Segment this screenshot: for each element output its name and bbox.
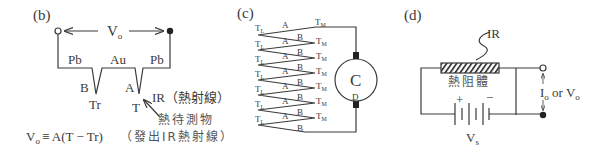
thermistor-icon bbox=[441, 63, 499, 73]
svg-text:TM: TM bbox=[316, 81, 328, 92]
svg-text:TL: TL bbox=[255, 99, 265, 110]
thermistor-label: 熱阻體 bbox=[448, 75, 490, 89]
svg-text:B: B bbox=[297, 62, 303, 72]
svg-text:TL: TL bbox=[255, 54, 265, 65]
hot-junction-labels: TM TM TM TM TM TM TM bbox=[315, 17, 328, 122]
meter-sub-label: D bbox=[352, 92, 359, 102]
output-filled-terminal-icon bbox=[540, 112, 546, 118]
svg-text:TM: TM bbox=[316, 111, 328, 122]
panel-c-thermopile: (c) TL TL TL TL TL TL TL TM TM TM TM TM … bbox=[237, 5, 377, 133]
panel-d-thermistor: (d) IR 熱阻體 + − Vs Io or Vo bbox=[404, 7, 580, 147]
meter-wire-top bbox=[316, 27, 356, 52]
vo-label: Vo bbox=[107, 23, 123, 41]
svg-text:B: B bbox=[297, 77, 303, 87]
wire-label-pb-left: Pb bbox=[68, 52, 82, 67]
wire-label-pb-right: Pb bbox=[150, 52, 164, 67]
svg-text:B: B bbox=[297, 107, 303, 117]
svg-text:B: B bbox=[297, 92, 303, 102]
output-open-terminal-icon bbox=[540, 65, 546, 71]
equation: Vo≡ A(T − Tr) bbox=[26, 129, 103, 146]
junction-b-label: B bbox=[80, 80, 89, 95]
svg-text:TL: TL bbox=[255, 23, 265, 34]
svg-text:B: B bbox=[297, 123, 303, 133]
svg-text:TL: TL bbox=[255, 84, 265, 95]
meter-terminal-top bbox=[353, 52, 359, 59]
minus-sign: − bbox=[486, 90, 493, 105]
svg-text:A: A bbox=[282, 20, 289, 30]
svg-text:B: B bbox=[297, 47, 303, 57]
target-note: （發出IR熱射線） bbox=[120, 129, 234, 144]
plus-sign: + bbox=[456, 92, 463, 107]
filled-terminal-icon bbox=[167, 28, 173, 34]
output-label: Io or Vo bbox=[540, 85, 580, 102]
source-label: Vs bbox=[466, 130, 479, 147]
svg-text:TM: TM bbox=[316, 96, 328, 107]
svg-text:A: A bbox=[282, 96, 289, 106]
svg-text:TM: TM bbox=[316, 66, 328, 77]
svg-text:TM: TM bbox=[315, 17, 327, 28]
svg-text:A: A bbox=[282, 81, 289, 91]
panel-b-thermocouple: (b) Vo Pb Au Pb B Tr A T IR（熱射線） 熱待測物 （發… bbox=[26, 7, 234, 146]
svg-text:TL: TL bbox=[255, 114, 265, 125]
wire-label-au: Au bbox=[110, 52, 126, 67]
svg-text:B: B bbox=[297, 32, 303, 42]
target-label: 熱待測物 bbox=[158, 113, 214, 127]
panel-c-label: (c) bbox=[237, 5, 254, 22]
meter-label: C bbox=[350, 71, 361, 90]
svg-text:TM: TM bbox=[316, 36, 328, 47]
open-terminal-icon bbox=[55, 28, 61, 34]
meter-terminal-bottom bbox=[353, 101, 359, 108]
meter-wire-bottom bbox=[305, 108, 356, 132]
svg-text:TL: TL bbox=[255, 69, 265, 80]
svg-text:A: A bbox=[282, 66, 289, 76]
figure-canvas: (b) Vo Pb Au Pb B Tr A T IR（熱射線） 熱待測物 （發… bbox=[0, 0, 608, 159]
svg-text:TL: TL bbox=[255, 39, 265, 50]
panel-b-label: (b) bbox=[33, 7, 51, 24]
svg-text:A: A bbox=[282, 51, 289, 61]
ir-label: IR bbox=[487, 26, 500, 41]
svg-text:A: A bbox=[282, 111, 289, 121]
junction-t-label: T bbox=[132, 100, 140, 115]
ir-label: IR（熱射線） bbox=[152, 90, 230, 105]
cold-junction-labels: TL TL TL TL TL TL TL bbox=[255, 23, 265, 125]
junction-a-label: A bbox=[125, 80, 135, 95]
svg-text:A: A bbox=[282, 36, 289, 46]
svg-text:TM: TM bbox=[316, 51, 328, 62]
panel-d-label: (d) bbox=[404, 7, 422, 24]
junction-tr-label: Tr bbox=[89, 97, 101, 112]
